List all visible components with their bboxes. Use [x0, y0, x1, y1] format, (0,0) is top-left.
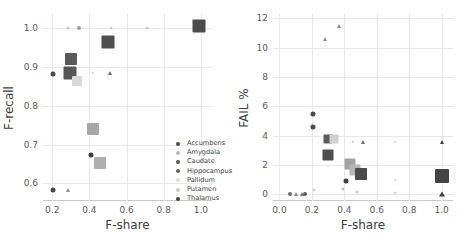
data-point-thalamus [440, 140, 444, 144]
data-point-thalamus [193, 20, 206, 33]
data-point-putamen [109, 26, 112, 29]
y-tick-label: 10 [257, 43, 268, 53]
data-point-pallidum [176, 178, 180, 182]
data-point-thalamus [176, 197, 180, 201]
data-point-amygdala [323, 37, 327, 41]
data-point-accumbens [176, 142, 180, 146]
data-point-putamen [176, 188, 180, 192]
data-point-putamen [87, 123, 99, 135]
data-point-amygdala [337, 24, 341, 28]
x-tick-label: 1.0 [434, 205, 448, 215]
y-tick-label: 12 [257, 13, 268, 23]
data-point-putamen [394, 179, 396, 181]
legend-marker-icon [172, 194, 184, 203]
legend-item-thalamus[interactable]: Thalamus [172, 194, 232, 203]
data-point-amygdala [146, 26, 149, 29]
y-tick-label: 0 [262, 189, 268, 199]
y-tick-label: 0.6 [24, 178, 38, 188]
data-point-putamen [92, 72, 94, 74]
x-gridline [377, 14, 378, 201]
x-tick-label: 0.8 [402, 205, 416, 215]
data-point-accumbens [51, 188, 56, 193]
data-point-caudate [102, 36, 115, 49]
y-gridline [273, 136, 453, 137]
data-point-pallidum [77, 26, 81, 30]
data-point-putamen [352, 141, 354, 143]
data-point-caudate [322, 149, 333, 160]
x-gridline [164, 14, 165, 201]
x-tick-label: 0.6 [119, 205, 133, 215]
legend-marker-icon [172, 139, 184, 148]
legend-marker-icon [172, 167, 184, 176]
data-point-amygdala [66, 188, 70, 192]
legend-item-hippocampus[interactable]: Hippocampus [172, 167, 232, 176]
data-point-putamen [341, 187, 344, 190]
y-tick-label: 6 [262, 101, 268, 111]
data-point-pallidum [313, 188, 316, 191]
legend-item-putamen[interactable]: Putamen [172, 185, 232, 194]
y-gridline [273, 18, 453, 19]
x-gridline [127, 14, 128, 201]
data-point-hippocampus [303, 192, 307, 196]
y-tick-label: 0.8 [24, 101, 38, 111]
y-gridline [273, 106, 453, 107]
data-point-accumbens [310, 125, 315, 130]
x-tick-label: 0.4 [82, 205, 96, 215]
legend-item-pallidum[interactable]: Pallidum [172, 176, 232, 185]
legend-marker-icon [172, 157, 184, 166]
x-tick-label: 0.2 [305, 205, 319, 215]
x-gridline [312, 14, 313, 201]
x-gridline [409, 14, 410, 201]
data-point-pallidum [330, 135, 339, 144]
legend-marker-icon [172, 148, 184, 157]
data-point-accumbens [51, 71, 56, 76]
legend-item-amygdala[interactable]: Amygdala [172, 148, 232, 157]
data-point-amygdala [176, 151, 180, 155]
legend-left: AccumbensAmygdalaCaudateHippocampusPalli… [172, 139, 232, 203]
data-point-hippocampus [65, 53, 77, 65]
legend-marker-icon [172, 176, 184, 185]
x-gridline [279, 14, 280, 201]
data-point-amygdala [294, 192, 298, 196]
legend-label: Pallidum [187, 176, 215, 185]
data-point-pallidum [393, 191, 396, 194]
data-point-hippocampus [108, 71, 112, 75]
panel-fail-pct: F-share FAIL % 0.00.20.40.60.81.00246810… [236, 0, 471, 246]
legend-item-accumbens[interactable]: Accumbens [172, 139, 232, 148]
legend-label: Caudate [187, 157, 215, 166]
data-point-amygdala [67, 26, 70, 29]
data-point-accumbens [310, 112, 315, 117]
y-tick-label: 8 [262, 72, 268, 82]
legend-item-caudate[interactable]: Caudate [172, 157, 232, 166]
panel-f-recall: F-share F-recall 0.20.40.60.81.00.60.70.… [0, 0, 236, 246]
data-point-caudate [176, 160, 180, 164]
legend-label: Amygdala [187, 148, 220, 157]
legend-label: Hippocampus [187, 167, 232, 176]
plot-area-right: F-share FAIL % 0.00.20.40.60.81.00246810… [273, 14, 453, 201]
x-gridline [89, 14, 90, 201]
data-point-putamen [394, 141, 396, 143]
y-axis-title-right: FAIL % [237, 88, 251, 127]
x-gridline [52, 14, 53, 201]
legend-marker-icon [172, 185, 184, 194]
legend-label: Accumbens [187, 139, 225, 148]
x-axis-title-right: F-share [341, 218, 386, 232]
y-tick-label: 0.7 [24, 140, 38, 150]
x-tick-label: 0.8 [157, 205, 171, 215]
legend-label: Thalamus [187, 194, 219, 203]
data-point-thalamus [439, 191, 445, 196]
figure-canvas: F-share F-recall 0.20.40.60.81.00.60.70.… [0, 0, 471, 246]
y-gridline [273, 77, 453, 78]
y-tick-label: 2 [262, 160, 268, 170]
data-point-hippocampus [361, 140, 365, 144]
y-tick-label: 4 [262, 131, 268, 141]
x-gridline [344, 14, 345, 201]
x-tick-label: 0.6 [370, 205, 384, 215]
y-gridline [273, 48, 453, 49]
data-point-thalamus [88, 153, 93, 158]
x-tick-label: 0.0 [272, 205, 286, 215]
x-tick-label: 0.2 [45, 205, 59, 215]
legend-label: Putamen [187, 185, 216, 194]
y-tick-label: 1.0 [24, 23, 38, 33]
data-point-thalamus [344, 178, 349, 183]
